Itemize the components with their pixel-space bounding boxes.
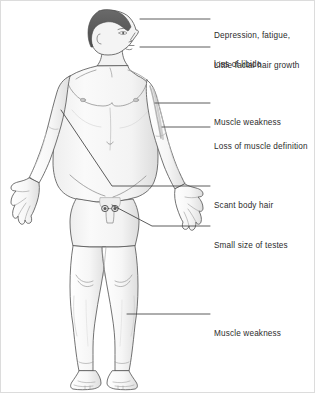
- annotation-line-1: Little facial hair growth: [214, 61, 300, 71]
- nipple-left: [80, 98, 85, 101]
- annotation-line-1: Muscle weakness: [214, 329, 281, 339]
- nipple-right: [133, 98, 138, 101]
- pupil: [122, 32, 124, 34]
- annotation-line-1: Depression, fatigue,: [214, 31, 290, 41]
- annotation-loss-of-muscle-definition: Loss of muscle definition: [214, 123, 308, 171]
- testis-left-core: [104, 207, 107, 210]
- hypogonadism-diagram: Depression, fatigue, loss of libido Litt…: [0, 0, 315, 393]
- annotation-little-facial-hair-growth: Little facial hair growth: [214, 42, 300, 90]
- annotation-muscle-weakness-leg: Muscle weakness: [214, 310, 281, 358]
- annotation-line-1: Loss of muscle definition: [214, 142, 308, 152]
- annotation-line-1: Scant body hair: [214, 201, 273, 211]
- annotation-small-size-of-testes: Small size of testes: [214, 222, 288, 270]
- annotation-line-1: Small size of testes: [214, 241, 288, 251]
